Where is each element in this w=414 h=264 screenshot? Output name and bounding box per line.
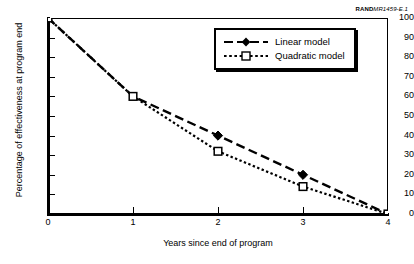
x-tick-label: 0 [38, 217, 58, 227]
figure-container: RANDMR1459-E.1 0102030405060708090100 01… [0, 0, 414, 264]
x-axis-title: Years since end of program [48, 238, 388, 248]
figure-id-prefix: RAND [356, 6, 374, 12]
legend-item-linear: Linear model [223, 35, 345, 49]
data-point-marker [129, 93, 137, 101]
x-tick-label: 3 [293, 217, 313, 227]
data-point-marker [48, 18, 52, 22]
x-tick-label: 1 [123, 217, 143, 227]
chart-legend: Linear model Quadratic model [214, 28, 356, 70]
data-point-marker [298, 170, 307, 179]
legend-item-quadratic: Quadratic model [223, 49, 345, 63]
x-tick-label: 2 [208, 217, 228, 227]
legend-label-linear-model: Linear model [275, 36, 330, 48]
legend-key-quadratic-model [223, 50, 269, 62]
data-point-marker [213, 131, 222, 140]
legend-key-linear-model [223, 36, 269, 48]
legend-label-quadratic-model: Quadratic model [275, 50, 345, 62]
y-tick-mark [50, 214, 55, 215]
data-point-marker [214, 147, 222, 155]
y-axis-title: Percentage of effectiveness at program e… [14, 15, 24, 205]
x-tick-label: 4 [378, 217, 398, 227]
data-point-marker [299, 183, 307, 191]
data-point-marker [384, 210, 388, 214]
